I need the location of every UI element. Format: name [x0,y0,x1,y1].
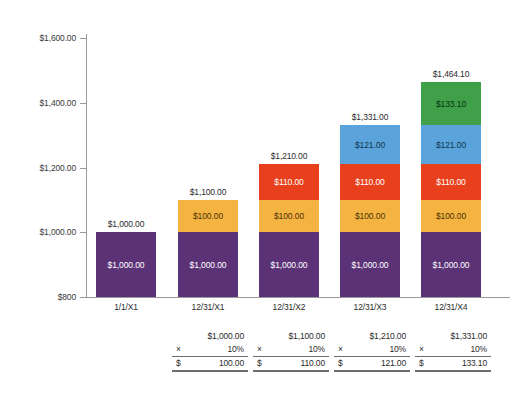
calculation-operator: × [415,343,424,356]
interest-calculation-block: $1,210.00×10%$121.00 [334,330,410,372]
calculation-currency-symbol: $ [334,357,343,370]
calculation-operator: × [253,343,262,356]
calculation-base-amount: $1,331.00 [451,330,491,343]
compound-interest-stacked-bar-chart: $800$1,000.00$1,200.00$1,400.00$1,600.00… [0,0,518,400]
interest-calculation-block: $1,100.00×10%$110.00 [253,330,329,372]
calculation-rate: 10% [227,343,248,356]
calculation-currency-symbol: $ [415,357,424,370]
calculation-base-amount: $1,000.00 [208,330,248,343]
calculation-result: 110.00 [301,357,329,370]
calculation-rate: 10% [470,343,491,356]
calculation-result: 100.00 [219,357,248,370]
calculation-rate: 10% [308,343,329,356]
calculation-rate: 10% [389,343,410,356]
calculation-currency-symbol: $ [172,357,181,370]
interest-calculation-block: $1,000.00×10%$100.00 [172,330,248,372]
calculation-result: 133.10 [462,357,491,370]
calculation-currency-symbol: $ [253,357,262,370]
interest-calculation-block: $1,331.00×10%$133.10 [415,330,491,372]
calculation-operator: × [334,343,343,356]
calculation-result: 121.00 [381,357,410,370]
calculation-base-amount: $1,210.00 [370,330,410,343]
calculation-operator: × [172,343,181,356]
calculations-layer: $1,000.00×10%$100.00$1,100.00×10%$110.00… [0,0,518,400]
calculation-base-amount: $1,100.00 [289,330,329,343]
